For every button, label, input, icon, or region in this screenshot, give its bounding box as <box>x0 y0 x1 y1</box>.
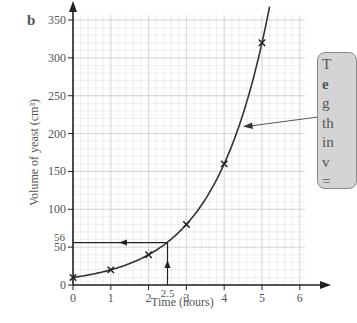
callout-line: in <box>322 133 356 153</box>
callout-box: T e g th in v = <box>317 52 357 189</box>
x-axis-arrow-icon <box>320 281 331 289</box>
x-tick-label: 4 <box>221 291 227 305</box>
x-tick-label: 0 <box>70 291 76 305</box>
y-tick-label: 350 <box>48 13 66 27</box>
y-tick-label: 250 <box>48 89 66 103</box>
y-tick-label: 150 <box>48 164 66 178</box>
arrow-left-icon <box>119 240 127 246</box>
y-axis-arrow-icon <box>69 1 77 12</box>
x-tick-label: 5 <box>259 291 265 305</box>
y-axis-label: Volume of yeast (cm³) <box>27 99 41 206</box>
y-tick-label: 100 <box>48 202 66 216</box>
arrow-up-icon <box>165 260 171 268</box>
callout-line: e <box>322 75 356 95</box>
y-tick-label: 0 <box>60 278 66 292</box>
x-tick-label: 1 <box>108 291 114 305</box>
callout-line: = <box>322 172 356 192</box>
part-label: b <box>27 12 35 29</box>
callout-line: th <box>322 114 356 134</box>
callout-line: v <box>322 153 356 173</box>
x-tick-label: 6 <box>297 291 303 305</box>
y-tick-label: 300 <box>48 51 66 65</box>
callout-line: T <box>322 55 356 75</box>
reading-x-label: 2.5 <box>161 287 175 299</box>
callout-line: g <box>322 94 356 114</box>
y-tick-label: 200 <box>48 127 66 141</box>
reading-y-label: 56 <box>54 231 66 243</box>
